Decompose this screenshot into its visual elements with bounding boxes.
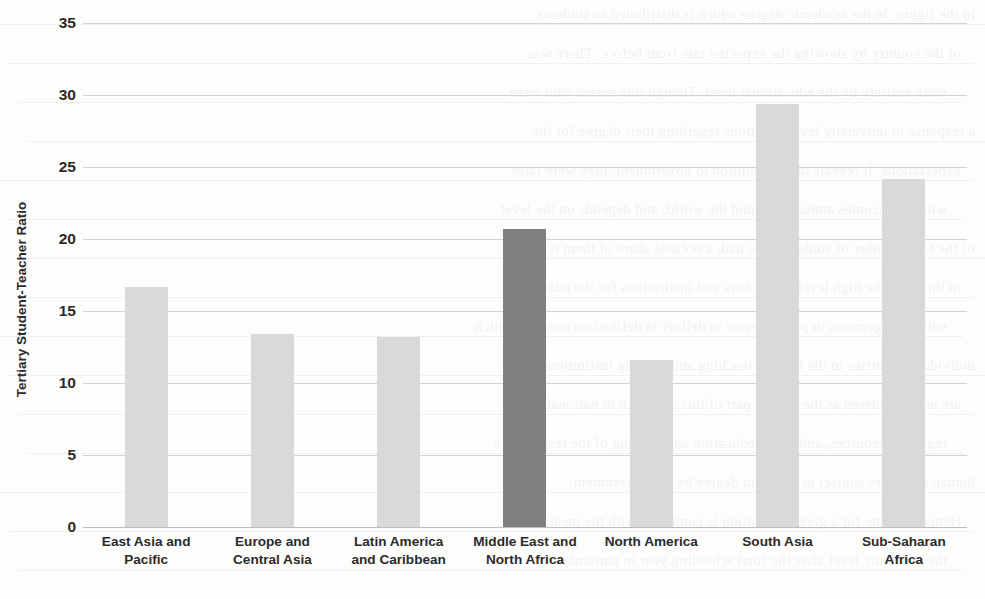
x-tick-label: North America	[588, 533, 714, 569]
bar-slot	[462, 23, 588, 527]
bar[interactable]	[125, 287, 168, 527]
y-tick-label: 15	[24, 302, 76, 320]
x-tick-label: East Asia andPacific	[83, 533, 209, 569]
x-tick-label-line: North America	[590, 533, 712, 551]
x-tick-label-line: North Africa	[464, 551, 586, 569]
bar[interactable]	[630, 360, 673, 527]
plot-area	[83, 23, 967, 527]
bar-slot	[336, 23, 462, 527]
y-tick-label: 10	[24, 374, 76, 392]
x-tick-label: Latin Americaand Caribbean	[336, 533, 462, 569]
axis-baseline	[83, 527, 967, 528]
x-tick-label-line: Central Asia	[211, 551, 333, 569]
x-tick-label-line: Latin America	[338, 533, 460, 551]
bar[interactable]	[882, 179, 925, 527]
bar-chart: 35302520151050 Tertiary Student-Teacher …	[0, 0, 985, 599]
x-tick-label: Middle East andNorth Africa	[462, 533, 588, 569]
y-tick-label: 30	[24, 86, 76, 104]
x-tick-label-line: and Caribbean	[338, 551, 460, 569]
x-tick-label-line: Europe and	[211, 533, 333, 551]
x-tick-label-line: Pacific	[85, 551, 207, 569]
bar-slot	[83, 23, 209, 527]
bar-slot	[841, 23, 967, 527]
bar-slot	[209, 23, 335, 527]
x-tick-label-line: East Asia and	[85, 533, 207, 551]
y-axis-title: Tertiary Student-Teacher Ratio	[14, 160, 29, 440]
bar[interactable]	[251, 334, 294, 527]
x-tick-label: Europe andCentral Asia	[209, 533, 335, 569]
y-tick-label: 25	[24, 158, 76, 176]
x-tick-label-line: Sub-Saharan Africa	[843, 533, 965, 569]
bar[interactable]	[503, 229, 546, 527]
bar-slot	[714, 23, 840, 527]
y-tick-label: 0	[24, 518, 76, 536]
x-tick-label-line: South Asia	[716, 533, 838, 551]
bar[interactable]	[377, 337, 420, 527]
y-tick-label: 5	[24, 446, 76, 464]
bar[interactable]	[756, 104, 799, 527]
y-tick-label: 35	[24, 14, 76, 32]
bar-slot	[588, 23, 714, 527]
x-axis-labels: East Asia andPacificEurope andCentral As…	[83, 533, 967, 569]
x-tick-label: Sub-Saharan Africa	[841, 533, 967, 569]
x-tick-label: South Asia	[714, 533, 840, 569]
y-tick-label: 20	[24, 230, 76, 248]
x-tick-label-line: Middle East and	[464, 533, 586, 551]
bar-series	[83, 23, 967, 527]
